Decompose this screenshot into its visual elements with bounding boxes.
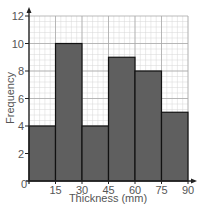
y-tick-label: 12 (12, 10, 24, 22)
histogram-bar (135, 71, 162, 181)
y-axis-label: Frequency (4, 72, 16, 124)
x-tick-label: 75 (155, 184, 167, 196)
x-tick-label: 90 (182, 184, 194, 196)
histogram-chart: 024681012 153045607590 Thickness (mm) Fr… (0, 0, 200, 209)
x-axis-label: Thickness (mm) (69, 192, 147, 204)
y-axis-arrow-icon (27, 7, 32, 13)
histogram-bar (29, 126, 56, 181)
histogram-bar (82, 126, 109, 181)
y-tick-label: 8 (18, 65, 24, 77)
x-tick-label: 15 (49, 184, 61, 196)
histogram-bar (109, 57, 136, 181)
bars (29, 44, 188, 182)
y-tick-label: 4 (18, 120, 24, 132)
histogram-bar (162, 112, 189, 181)
histogram-bar (56, 44, 83, 182)
y-tick-label: 10 (12, 38, 24, 50)
y-tick-label: 0 (21, 178, 27, 190)
y-tick-label: 2 (18, 148, 24, 160)
y-tick-label: 6 (18, 93, 24, 105)
x-axis-arrow-icon (191, 179, 197, 184)
